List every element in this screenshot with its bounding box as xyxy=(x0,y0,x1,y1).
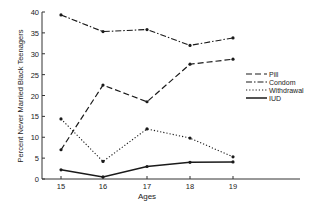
y-tick-label: 15 xyxy=(31,112,39,121)
data-point xyxy=(231,36,234,39)
x-axis-label: Ages xyxy=(138,192,156,201)
y-tick-label: 5 xyxy=(35,154,39,163)
data-point xyxy=(231,58,234,61)
data-point xyxy=(59,148,62,151)
data-point xyxy=(101,30,104,33)
x-tick-label: 17 xyxy=(143,182,151,191)
data-point xyxy=(188,136,191,139)
y-tick-label: 10 xyxy=(31,133,39,142)
y-tick-label: 25 xyxy=(31,71,39,80)
legend-label-condom: Condom xyxy=(269,79,296,86)
series-withdrawal-line xyxy=(61,119,233,162)
legend-label-withdrawal: Withdrawal xyxy=(269,87,304,94)
data-point xyxy=(145,127,148,130)
data-point xyxy=(145,28,148,31)
legend-label-pill: Pill xyxy=(269,71,279,78)
data-point xyxy=(145,165,148,168)
line-chart: 0510152025303540 1516171819 Percent Neve… xyxy=(0,0,321,211)
series-lines xyxy=(59,13,234,178)
data-point xyxy=(188,44,191,47)
series-iud-line xyxy=(61,162,233,177)
data-point xyxy=(188,63,191,66)
data-point xyxy=(231,160,234,163)
x-tick-label: 16 xyxy=(99,182,107,191)
data-point xyxy=(101,160,104,163)
data-point xyxy=(101,175,104,178)
data-point xyxy=(231,155,234,158)
y-tick-label: 40 xyxy=(31,8,39,17)
y-tick-label: 0 xyxy=(35,175,39,184)
axes xyxy=(42,12,300,179)
x-tick-label: 18 xyxy=(186,182,194,191)
data-point xyxy=(59,168,62,171)
data-point xyxy=(101,83,104,86)
y-axis-ticks: 0510152025303540 xyxy=(31,8,45,184)
y-tick-label: 30 xyxy=(31,50,39,59)
y-axis-label: Percent Never Married Black Teenagers xyxy=(16,29,25,162)
data-point xyxy=(59,117,62,120)
y-tick-label: 35 xyxy=(31,29,39,38)
x-axis-ticks: 1516171819 xyxy=(57,176,237,191)
y-tick-label: 20 xyxy=(31,92,39,101)
x-tick-label: 19 xyxy=(229,182,237,191)
data-point xyxy=(59,13,62,16)
series-pill-line xyxy=(61,59,233,150)
legend-label-iud: IUD xyxy=(269,95,281,102)
x-tick-label: 15 xyxy=(57,182,65,191)
data-point xyxy=(145,100,148,103)
data-point xyxy=(188,161,191,164)
legend: PillCondomWithdrawalIUD xyxy=(246,71,304,102)
